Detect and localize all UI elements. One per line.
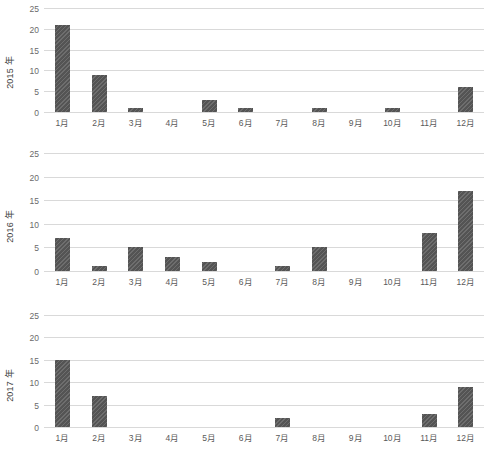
bar[interactable]: [238, 108, 253, 112]
bar-slot: [117, 315, 154, 427]
x-axis-tick-label: 5月: [191, 431, 228, 443]
x-axis-tick-label: 2月: [81, 431, 118, 443]
bar[interactable]: [128, 247, 143, 271]
x-axis-tick-label: 11月: [411, 275, 448, 287]
x-axis-tick-label: 9月: [337, 431, 374, 443]
y-axis-tick-label: 15: [30, 196, 39, 206]
x-axis-tick-label: 10月: [374, 431, 411, 443]
gridline: 0: [44, 427, 484, 428]
y-axis-tick-label: 20: [30, 25, 39, 35]
bar[interactable]: [312, 247, 327, 271]
bar[interactable]: [55, 25, 70, 112]
x-axis-tick-label: 2月: [81, 275, 118, 287]
y-axis-tick-label: 5: [34, 401, 39, 411]
x-axis-tick-label: 7月: [264, 431, 301, 443]
x-axis-tick-label: 1月: [44, 431, 81, 443]
bar[interactable]: [458, 87, 473, 112]
bar-series: [44, 153, 484, 271]
x-axis-tick-label: 3月: [117, 275, 154, 287]
y-axis-title-2017: 2017 年: [0, 307, 18, 463]
bar-slot: [337, 153, 374, 271]
bar-slot: [374, 8, 411, 112]
x-axis-tick-label: 6月: [227, 275, 264, 287]
bar-slot: [301, 8, 338, 112]
x-axis-tick-label: 12月: [447, 431, 484, 443]
x-axis-tick-label: 4月: [154, 275, 191, 287]
x-axis-tick-label: 1月: [44, 275, 81, 287]
x-axis-tick-label: 7月: [264, 116, 301, 128]
y-axis-tick-label: 20: [30, 333, 39, 343]
y-axis-tick-label: 25: [30, 149, 39, 159]
bar[interactable]: [422, 414, 437, 427]
bar-slot: [227, 8, 264, 112]
bar-slot: [44, 8, 81, 112]
x-axis-tick-label: 1月: [44, 116, 81, 128]
x-axis-tick-label: 4月: [154, 116, 191, 128]
bar-slot: [337, 8, 374, 112]
bar-slot: [117, 153, 154, 271]
x-axis-tick-label: 7月: [264, 275, 301, 287]
bar-slot: [374, 315, 411, 427]
bar[interactable]: [92, 266, 107, 271]
bar[interactable]: [275, 266, 290, 271]
bar[interactable]: [458, 387, 473, 427]
bar-slot: [81, 8, 118, 112]
bar-slot: [411, 315, 448, 427]
bar-slot: [227, 153, 264, 271]
bar[interactable]: [275, 418, 290, 427]
bar[interactable]: [458, 191, 473, 271]
bar-slot: [447, 315, 484, 427]
x-axis-tick-label: 8月: [301, 275, 338, 287]
bar[interactable]: [92, 396, 107, 427]
x-axis-tick-label: 6月: [227, 116, 264, 128]
y-axis-tick-label: 10: [30, 378, 39, 388]
y-axis-title-2015: 2015 年: [0, 0, 18, 145]
bar[interactable]: [92, 75, 107, 112]
bar[interactable]: [128, 108, 143, 112]
bar-slot: [447, 8, 484, 112]
y-axis-tick-label: 5: [34, 243, 39, 253]
x-axis-tick-label: 9月: [337, 116, 374, 128]
bar-slot: [81, 153, 118, 271]
y-axis-tick-label: 0: [34, 108, 39, 118]
plot-area-2016: 0510152025: [44, 153, 484, 271]
bar-slot: [154, 153, 191, 271]
bar-series: [44, 315, 484, 427]
x-axis-tick-label: 12月: [447, 275, 484, 287]
y-axis-tick-label: 0: [34, 423, 39, 433]
bar-slot: [44, 315, 81, 427]
bar-series: [44, 8, 484, 112]
y-axis-tick-label: 10: [30, 220, 39, 230]
x-axis-tick-label: 3月: [117, 431, 154, 443]
bar-slot: [227, 315, 264, 427]
bar[interactable]: [55, 360, 70, 427]
x-axis-tick-label: 5月: [191, 275, 228, 287]
bar[interactable]: [165, 257, 180, 271]
y-axis-tick-label: 20: [30, 173, 39, 183]
x-axis-tick-label: 5月: [191, 116, 228, 128]
y-axis-tick-label: 0: [34, 267, 39, 277]
bar[interactable]: [202, 262, 217, 271]
x-axis-labels-2017: 1月2月3月4月5月6月7月8月9月10月11月12月: [44, 431, 484, 443]
bar[interactable]: [55, 238, 70, 271]
bar[interactable]: [312, 108, 327, 112]
bar[interactable]: [385, 108, 400, 112]
bar[interactable]: [422, 233, 437, 271]
bar-slot: [264, 153, 301, 271]
bar-slot: [191, 315, 228, 427]
gridline: 0: [44, 271, 484, 272]
y-axis-title-2016: 2016 年: [0, 145, 18, 307]
bar-slot: [264, 315, 301, 427]
bar-slot: [191, 8, 228, 112]
x-axis-tick-label: 12月: [447, 116, 484, 128]
x-axis-tick-label: 11月: [411, 116, 448, 128]
bar[interactable]: [202, 100, 217, 112]
bar-slot: [154, 315, 191, 427]
x-axis-tick-label: 3月: [117, 116, 154, 128]
bar-slot: [337, 315, 374, 427]
x-axis-tick-label: 4月: [154, 431, 191, 443]
gridline: 0: [44, 112, 484, 113]
bar-slot: [301, 153, 338, 271]
x-axis-tick-label: 10月: [374, 116, 411, 128]
bar-slot: [374, 153, 411, 271]
